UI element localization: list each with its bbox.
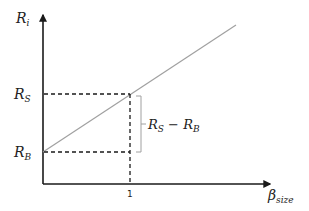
- difference-bracket: [136, 96, 146, 152]
- y-axis-label: Ri: [15, 10, 30, 28]
- x-tick-1: 1: [127, 189, 133, 199]
- linear-relation-line: [43, 25, 236, 152]
- y-tick-rs: RS: [13, 86, 31, 104]
- bracket-label: RS − RB: [147, 117, 200, 134]
- diagram-canvas: Ri RS RB 1 βsize RS − RB: [0, 0, 309, 211]
- y-tick-rb: RB: [13, 144, 32, 162]
- x-axis-label: βsize: [267, 187, 294, 205]
